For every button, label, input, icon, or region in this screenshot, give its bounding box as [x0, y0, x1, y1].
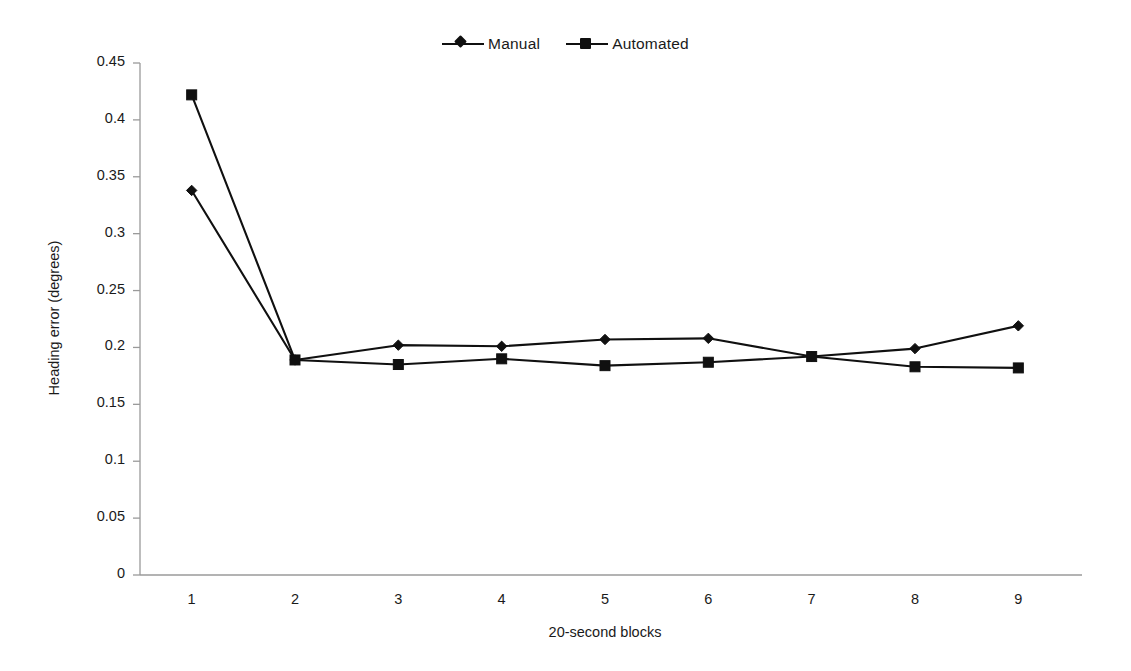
x-tick-label: 9 — [978, 591, 1058, 607]
x-tick-label: 6 — [668, 591, 748, 607]
y-tick-label: 0.25 — [15, 281, 125, 297]
y-tick-label: 0.3 — [15, 224, 125, 240]
data-point-automated-8 — [910, 362, 920, 372]
data-point-manual-9 — [1013, 321, 1023, 331]
x-axis-title: 20-second blocks — [140, 624, 1070, 640]
y-tick-label: 0.45 — [15, 53, 125, 69]
x-tick-label: 1 — [152, 591, 232, 607]
chart-canvas — [0, 0, 1131, 671]
x-tick-label: 8 — [875, 591, 955, 607]
data-point-automated-6 — [703, 357, 713, 367]
y-tick-label: 0.4 — [15, 110, 125, 126]
chart-page: Manual Automated 00.050.10.150.20.250.30… — [0, 0, 1131, 671]
data-point-manual-8 — [910, 343, 920, 353]
y-tick-label: 0.35 — [15, 167, 125, 183]
data-point-automated-7 — [807, 352, 817, 362]
data-point-manual-5 — [600, 334, 610, 344]
series-line-automated — [192, 95, 1019, 368]
y-tick-label: 0.1 — [15, 451, 125, 467]
data-point-manual-1 — [186, 185, 196, 195]
data-point-automated-3 — [393, 360, 403, 370]
data-point-manual-4 — [496, 341, 506, 351]
plot-area: 00.050.10.150.20.250.30.350.40.45 123456… — [0, 0, 1131, 671]
data-point-manual-6 — [703, 333, 713, 343]
data-point-automated-1 — [187, 90, 197, 100]
data-point-automated-9 — [1013, 363, 1023, 373]
y-tick-label: 0.15 — [15, 394, 125, 410]
x-tick-label: 7 — [772, 591, 852, 607]
data-point-automated-4 — [497, 354, 507, 364]
y-axis-title: Heading error (degrees) — [46, 188, 62, 448]
x-tick-label: 3 — [358, 591, 438, 607]
y-tick-label: 0.05 — [15, 508, 125, 524]
data-point-manual-3 — [393, 340, 403, 350]
data-point-automated-5 — [600, 361, 610, 371]
y-tick-label: 0 — [15, 565, 125, 581]
data-point-automated-2 — [290, 355, 300, 365]
y-tick-label: 0.2 — [15, 337, 125, 353]
x-tick-label: 4 — [462, 591, 542, 607]
x-tick-label: 2 — [255, 591, 335, 607]
x-tick-label: 5 — [565, 591, 645, 607]
